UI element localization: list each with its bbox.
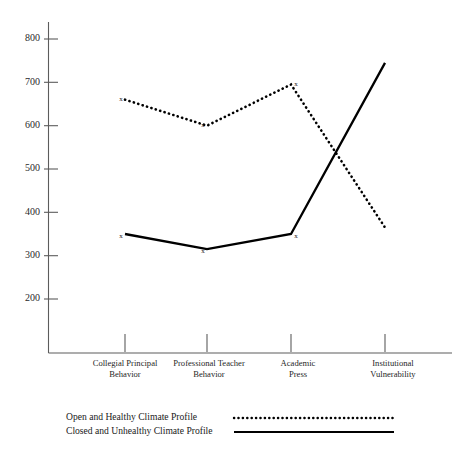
x-tick-label-academic-press: Academic [281,358,316,368]
x-tick-label-collegial-principal-behavior: Collegial Principal [93,358,158,368]
x-tick-label-professional-teacher-behavior: Professional Teacher [173,358,245,368]
x-tick-label-professional-teacher-behavior-line2: Behavior [193,369,225,379]
x-tick-group [125,334,385,352]
x-tick-label-collegial-principal-behavior-line2: Behavior [109,369,141,379]
y-tick-label: 700 [25,76,40,87]
y-tick-label: 400 [25,206,40,217]
y-tick-label: 600 [25,119,40,130]
y-tick-label: 200 [25,292,40,303]
series-open-and-healthy-climate-profile-line [125,85,385,228]
chart-figure: 800 700 600 500 400 300 200 Collegial Pr… [0,0,459,454]
data-point-marker: x [201,121,205,129]
data-point-marker: x [201,247,205,255]
data-point-marker: x [119,95,123,103]
y-tick-label: 500 [25,162,40,173]
x-tick-label-institutional-vulnerability-line2: Vulnerability [370,369,416,379]
y-tick-label: 800 [25,32,40,43]
line-chart-canvas: 800 700 600 500 400 300 200 Collegial Pr… [0,0,459,454]
data-point-marker: x [294,80,298,88]
chart-legend: Open and Healthy Climate Profile Closed … [66,411,394,436]
y-tick-group: 800 700 600 500 400 300 200 [25,32,58,303]
legend-label-open-and-healthy: Open and Healthy Climate Profile [66,411,197,422]
y-tick-label: 300 [25,249,40,260]
data-point-marker: x [119,232,123,240]
x-tick-label-institutional-vulnerability: Institutional [372,358,414,368]
x-tick-label-academic-press-line2: Press [289,369,308,379]
x-axis-labels: Collegial Principal Behavior Professiona… [93,358,417,379]
legend-label-closed-and-unhealthy: Closed and Unhealthy Climate Profile [66,425,213,436]
series-closed-and-unhealthy-climate-profile-line [125,63,385,249]
data-point-marker: x [294,232,298,240]
